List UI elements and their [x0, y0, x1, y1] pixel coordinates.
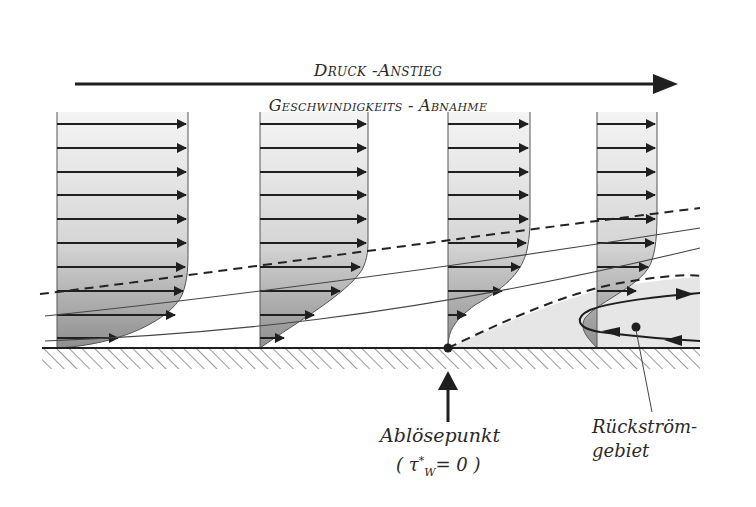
- wall: [42, 348, 700, 369]
- formula-sub: W: [424, 466, 435, 479]
- formula-rest: = 0 ): [436, 454, 481, 475]
- separation-point-label: Ablösepunkt: [380, 424, 500, 446]
- velocity-profile-2: [260, 112, 368, 348]
- reverse-flow-label-line2: gebiet: [592, 440, 649, 461]
- reverse-flow-label-line1: Rückström-: [592, 416, 697, 437]
- wall-shear-formula: ( τ*W= 0 ): [396, 454, 481, 479]
- pressure-rise-label: Druck -Anstieg: [0, 60, 756, 80]
- separation-point-marker: [444, 344, 453, 353]
- formula-tau: τ: [409, 454, 419, 475]
- separation-point-arrow: [438, 371, 458, 422]
- formula-open: (: [396, 454, 409, 475]
- velocity-profile-3: [448, 112, 530, 348]
- velocity-decrease-label: Geschwindigkeits - Abnahme: [0, 96, 756, 115]
